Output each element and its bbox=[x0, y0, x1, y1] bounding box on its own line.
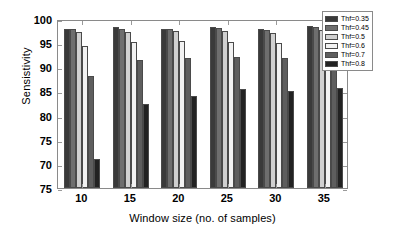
bar-group bbox=[113, 21, 149, 188]
legend-label: Thf=0.7 bbox=[341, 51, 365, 59]
y-tick-mark bbox=[343, 118, 347, 119]
x-tick-label: 35 bbox=[304, 192, 344, 204]
y-tick-label: 90 bbox=[22, 63, 52, 74]
y-axis-tick-labels: 10095908580757075 bbox=[22, 0, 52, 239]
y-tick-mark bbox=[58, 166, 62, 167]
y-tick-label: 95 bbox=[22, 39, 52, 50]
y-tick-mark bbox=[343, 166, 347, 167]
legend-item: Thf=0.35 bbox=[325, 14, 369, 23]
x-axis-tick-labels: 101520253035 bbox=[57, 192, 348, 208]
y-tick-label: 100 bbox=[22, 15, 52, 26]
legend-color-swatch bbox=[325, 34, 338, 40]
bar bbox=[143, 104, 149, 188]
y-tick-mark bbox=[58, 142, 62, 143]
x-tick-mark bbox=[131, 21, 132, 25]
bar-group bbox=[64, 21, 100, 188]
y-tick-mark bbox=[58, 190, 62, 191]
y-tick-mark bbox=[58, 69, 62, 70]
y-tick-label: 80 bbox=[22, 111, 52, 122]
legend-label: Thf=0.5 bbox=[341, 33, 365, 41]
legend-item: Thf=0.7 bbox=[325, 50, 369, 59]
legend-color-swatch bbox=[325, 16, 338, 22]
x-tick-label: 15 bbox=[110, 192, 150, 204]
legend-item: Thf=0.6 bbox=[325, 41, 369, 50]
x-tick-label: 20 bbox=[158, 192, 198, 204]
bar bbox=[240, 89, 246, 188]
plot-inner bbox=[58, 21, 347, 188]
y-tick-label: 85 bbox=[22, 87, 52, 98]
bar bbox=[191, 96, 197, 188]
y-tick-mark bbox=[58, 93, 62, 94]
x-axis-label: Window size (no. of samples) bbox=[57, 212, 348, 224]
bar-group bbox=[258, 21, 294, 188]
legend-color-swatch bbox=[325, 61, 338, 67]
x-tick-mark bbox=[179, 184, 180, 188]
legend-color-swatch bbox=[325, 25, 338, 31]
y-tick-mark bbox=[58, 21, 62, 22]
bar-chart-figure: Sensistivity 10095908580757075 101520253… bbox=[0, 0, 402, 239]
bar bbox=[94, 159, 100, 188]
bar bbox=[288, 91, 294, 188]
bar bbox=[337, 88, 343, 188]
y-tick-mark bbox=[58, 118, 62, 119]
x-tick-mark bbox=[131, 184, 132, 188]
legend-label: Thf=0.6 bbox=[341, 42, 365, 50]
y-tick-mark bbox=[343, 93, 347, 94]
legend-item: Thf=0.45 bbox=[325, 23, 369, 32]
plot-area bbox=[57, 20, 348, 189]
x-tick-label: 25 bbox=[207, 192, 247, 204]
legend: Thf=0.35Thf=0.45Thf=0.5Thf=0.6Thf=0.7Thf… bbox=[322, 11, 373, 71]
legend-color-swatch bbox=[325, 43, 338, 49]
y-tick-label: 70 bbox=[22, 159, 52, 170]
legend-item: Thf=0.8 bbox=[325, 59, 369, 68]
legend-item: Thf=0.5 bbox=[325, 32, 369, 41]
y-tick-label: 75 bbox=[22, 135, 52, 146]
legend-label: Thf=0.35 bbox=[341, 15, 369, 23]
legend-label: Thf=0.45 bbox=[341, 24, 369, 32]
x-tick-mark bbox=[179, 21, 180, 25]
x-tick-mark bbox=[276, 21, 277, 25]
x-tick-mark bbox=[228, 184, 229, 188]
legend-color-swatch bbox=[325, 52, 338, 58]
bar-group bbox=[210, 21, 246, 188]
bar-group bbox=[161, 21, 197, 188]
y-tick-label: 75 bbox=[22, 184, 52, 195]
x-tick-mark bbox=[325, 184, 326, 188]
x-tick-label: 30 bbox=[255, 192, 295, 204]
legend-label: Thf=0.8 bbox=[341, 60, 365, 68]
x-tick-label: 10 bbox=[61, 192, 101, 204]
y-tick-mark bbox=[343, 190, 347, 191]
x-tick-mark bbox=[82, 21, 83, 25]
y-tick-mark bbox=[343, 142, 347, 143]
x-tick-mark bbox=[276, 184, 277, 188]
y-tick-mark bbox=[58, 45, 62, 46]
x-tick-mark bbox=[82, 184, 83, 188]
x-tick-mark bbox=[228, 21, 229, 25]
